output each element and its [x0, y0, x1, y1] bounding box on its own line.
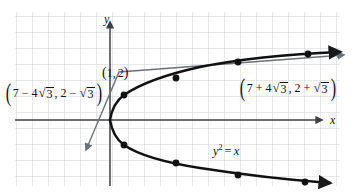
x-axis-label: x	[330, 113, 335, 128]
grid-background	[15, 12, 340, 186]
point-lower-near	[121, 142, 128, 149]
point-lower-end	[302, 179, 309, 186]
math-figure: y x (1,2) ( 7 − 4 √ 3 , 2 − √ 3 ) (	[0, 0, 355, 195]
point-upper-far	[305, 51, 312, 58]
point-left-intersection	[121, 92, 128, 99]
y-axis-label: y	[104, 12, 109, 27]
point-lower-mid	[173, 160, 180, 167]
point-upper-mid	[173, 75, 180, 82]
point-lower-far	[235, 172, 242, 179]
point-right-intersection	[235, 59, 242, 66]
plot-canvas	[0, 0, 355, 195]
